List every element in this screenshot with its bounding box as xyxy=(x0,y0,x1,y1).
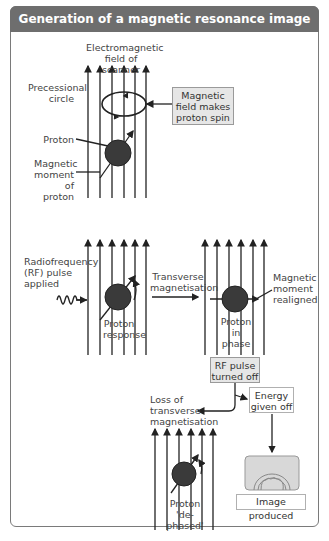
field-box: Magnetic field makes proton spin xyxy=(172,87,234,125)
energy-box: Energy given off xyxy=(249,387,294,413)
proton-in-phase xyxy=(222,286,248,312)
proton-label: Proton xyxy=(40,134,74,145)
proton-dephased xyxy=(172,462,196,486)
mri-image-icon xyxy=(245,456,299,490)
proton-response xyxy=(105,284,131,310)
field-label: Electromagnetic field of scanner xyxy=(86,42,156,75)
image-produced-box: Image produced xyxy=(236,494,306,510)
rf-off-box: RF pulse turned off xyxy=(210,357,260,383)
rf-applied-label: Radiofrequency (RF) pulse applied xyxy=(24,256,86,289)
precessional-label: Precessional circle xyxy=(28,82,74,104)
loss-label: Loss of transverse magnetisation xyxy=(150,394,208,427)
moment-label: Magnetic moment of proton xyxy=(34,158,74,202)
transverse-label: Transverse magnetisation xyxy=(150,271,206,293)
dephased-label: Proton 'de-phased' xyxy=(164,498,206,531)
in-phase-label: Proton in phase xyxy=(218,316,254,349)
response-label: Proton response xyxy=(103,318,135,340)
proton-top xyxy=(105,140,131,166)
realigned-label: Magnetic moment realigned xyxy=(273,272,317,305)
field-lines-top xyxy=(88,66,146,198)
